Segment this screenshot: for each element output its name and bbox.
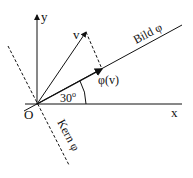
vector-v-label: v <box>73 27 80 42</box>
angle-arc <box>80 81 86 104</box>
x-axis-label: x <box>171 105 178 120</box>
linear-map-diagram: y x O v φ(v) 30o Bild φ Kern φ <box>0 0 193 178</box>
kernel-line <box>8 46 69 165</box>
projection-line <box>86 32 102 69</box>
angle-label: 30o <box>60 90 76 105</box>
origin-label: O <box>24 107 33 122</box>
phi-v-label: φ(v) <box>98 73 119 87</box>
kernel-line-label: Kern φ <box>54 117 82 154</box>
y-axis-label: y <box>41 9 48 24</box>
image-line-label: Bild φ <box>131 20 165 47</box>
